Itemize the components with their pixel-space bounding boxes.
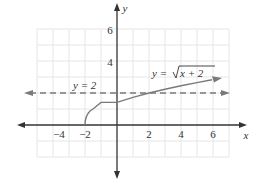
graph: −4 −2 2 4 6 x 6 4 y y = 2 y = x + 2 (0, 0, 266, 182)
x-tick--4: −4 (53, 128, 65, 140)
curve-label-radicand: x + 2 (179, 67, 204, 79)
y-tick-6: 6 (107, 24, 113, 36)
x-axis-left-arrow-icon (17, 122, 25, 128)
label-y-equals-2: y = 2 (72, 79, 97, 91)
x-tick-6: 6 (210, 128, 216, 140)
y-axis-label: y (122, 2, 128, 14)
x-axis-label: x (243, 129, 249, 141)
x-tick-2: 2 (146, 128, 152, 140)
curve-label-lhs: y = (151, 67, 167, 79)
x-axis-right-arrow-icon (239, 122, 247, 128)
x-tick-4: 4 (178, 128, 184, 140)
y-axis-down-arrow-icon (114, 171, 120, 179)
dashed-left-arrow-icon (24, 90, 33, 96)
y-tick-4: 4 (107, 56, 113, 68)
curve-sqrt (85, 76, 222, 125)
y-axis-up-arrow-icon (114, 3, 120, 11)
x-tick--2: −2 (79, 128, 91, 140)
